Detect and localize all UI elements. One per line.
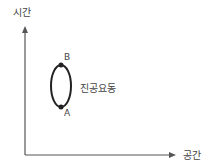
x-axis-arrow-icon (169, 152, 176, 158)
y-axis-arrow-icon (22, 26, 28, 33)
loop-label: 진공요동 (80, 80, 116, 95)
point-b-label: B (64, 52, 70, 62)
point-a-marker (59, 105, 64, 110)
y-axis (22, 26, 28, 155)
x-axis-label: 공간 (183, 147, 201, 162)
vacuum-fluctuation-loop (51, 63, 71, 110)
point-b-marker (59, 63, 64, 68)
y-axis-label: 시간 (13, 4, 31, 19)
x-axis (25, 152, 176, 158)
point-a-label: A (64, 108, 70, 118)
